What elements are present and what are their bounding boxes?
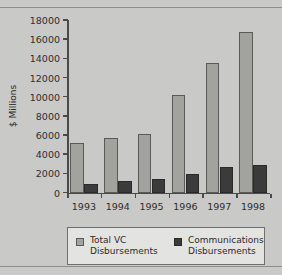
y-axis-tick [63,77,68,79]
legend-entry-communications: Communications Disbursements [166,235,264,257]
y-axis-tick-label: 0 [54,187,60,198]
y-axis-tick-label: 8000 [36,110,60,121]
x-axis-label-1997: 1997 [207,201,231,212]
y-axis-tick [63,19,68,21]
legend-swatch-icon-total-vc [76,238,84,246]
y-axis-tick-label: 12000 [30,72,60,83]
y-axis-tick-label: 2000 [36,168,60,179]
y-axis-tick [63,115,68,117]
bar-1994-series-1 [118,181,132,192]
plot-area: 0200040006000800010000120001400016000180… [67,20,270,194]
chart-legend: Total VC Disbursements Communications Di… [67,227,265,265]
x-axis-tick [67,194,69,198]
y-axis-tick [63,173,68,175]
x-axis-tick [270,194,272,198]
x-axis-tick [169,194,171,198]
x-axis-tick [101,194,103,198]
legend-label-communications-line2: Disbursements [188,246,256,256]
legend-label-total-vc-line1: Total VC [90,235,126,245]
legend-label-total-vc: Total VC Disbursements [90,235,158,257]
top-divider-rule [0,7,282,8]
y-axis-tick-label: 18000 [30,15,60,26]
x-axis-label-1993: 1993 [72,201,96,212]
bar-1998-series-1 [253,165,267,193]
bar-1997-series-0 [206,63,220,192]
bar-1993-series-1 [84,184,98,192]
bar-1995-series-1 [152,179,166,192]
legend-label-communications: Communications Disbursements [188,235,264,257]
y-axis-tick-label: 16000 [30,34,60,45]
x-axis-label-1998: 1998 [241,201,265,212]
y-axis-tick-label: 4000 [36,149,60,160]
bar-1993-series-0 [70,143,84,193]
x-axis-tick [135,194,137,198]
bar-1996-series-1 [186,174,200,193]
bar-1997-series-1 [220,167,234,193]
x-axis-tick [202,194,204,198]
y-axis-tick [63,38,68,40]
y-axis-line [67,20,69,194]
bar-1998-series-0 [239,32,253,192]
figure-page: $ Millions 02000400060008000100001200014… [0,0,282,275]
y-axis-tick-label: 6000 [36,130,60,141]
bar-1995-series-0 [138,134,152,192]
bar-chart-figure: $ Millions 02000400060008000100001200014… [0,9,282,265]
x-axis-label-1994: 1994 [106,201,130,212]
x-axis-label-1996: 1996 [173,201,197,212]
legend-label-total-vc-line2: Disbursements [90,246,158,256]
legend-entry-total-vc: Total VC Disbursements [68,235,166,257]
y-axis-tick [63,96,68,98]
x-axis-tick [236,194,238,198]
x-axis-label-1995: 1995 [139,201,163,212]
y-axis-tick-label: 10000 [30,91,60,102]
bar-1994-series-0 [104,138,118,193]
y-axis-tick [63,153,68,155]
legend-label-communications-line1: Communications [188,235,264,245]
bar-1996-series-0 [172,95,186,193]
legend-swatch-icon-communications [174,238,182,246]
y-axis-tick [63,58,68,60]
y-axis-tick [63,134,68,136]
y-axis-tick-label: 14000 [30,53,60,64]
y-axis-title: $ Millions [8,71,18,141]
bottom-divider-rule [0,266,282,267]
